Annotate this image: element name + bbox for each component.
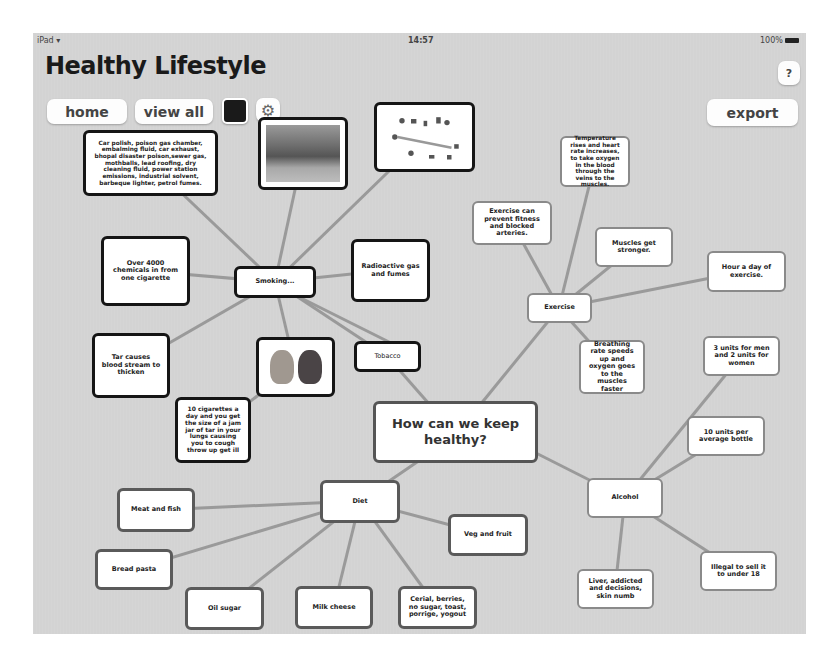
view-all-button[interactable]: view all	[135, 99, 213, 124]
node-breathing[interactable]: Breathing rate speeds up and oxygen goes…	[579, 340, 645, 394]
node-milk-cheese[interactable]: Milk cheese	[295, 586, 373, 629]
help-button[interactable]: ?	[778, 61, 800, 85]
node-central[interactable]: How can we keep healthy?	[373, 401, 538, 463]
node-meat-fish[interactable]: Meat and fish	[117, 488, 195, 532]
node-diagram-image[interactable]	[374, 102, 475, 172]
node-veg-fruit[interactable]: Veg and fruit	[448, 514, 528, 556]
node-tobacco[interactable]: Tobacco	[354, 341, 421, 372]
node-temperature[interactable]: Temperature rises and heart rate increas…	[560, 136, 630, 187]
node-muscles[interactable]: Muscles get stronger.	[595, 227, 673, 267]
node-4000-chemicals[interactable]: Over 4000 chemicals in from one cigarett…	[101, 236, 190, 306]
node-cerial[interactable]: Cerial, berries, no sugar, toast, porrig…	[398, 586, 477, 629]
node-lungs-image[interactable]	[256, 337, 335, 397]
home-button[interactable]: home	[47, 99, 127, 124]
node-factory-image[interactable]	[258, 117, 348, 190]
node-liver[interactable]: Liver, addicted and decisions, skin numb	[577, 569, 654, 609]
node-radioactive[interactable]: Radioactive gas and fumes	[351, 239, 430, 302]
export-button[interactable]: export	[707, 99, 798, 126]
color-swatch-button[interactable]	[222, 98, 248, 124]
node-illegal[interactable]: Illegal to sell it to under 18	[700, 551, 777, 591]
node-tar[interactable]: Tar causes blood stream to thicken	[92, 333, 170, 398]
node-chemicals-list[interactable]: Car polish, poison gas chamber, embalmin…	[83, 130, 218, 196]
factory-photo	[266, 125, 340, 182]
node-10-cigarettes[interactable]: 10 cigarettes a day and you get the size…	[175, 397, 251, 463]
node-diet[interactable]: Diet	[320, 480, 400, 523]
node-units-bottle[interactable]: 10 units per average bottle	[687, 416, 765, 456]
node-exercise-prevent[interactable]: Exercise can prevent fitness and blocked…	[472, 201, 552, 245]
node-hour-a-day[interactable]: Hour a day of exercise.	[707, 251, 786, 292]
lungs-image	[264, 345, 327, 389]
node-oil-sugar[interactable]: Oil sugar	[185, 587, 264, 630]
chemicals-diagram	[382, 110, 467, 164]
node-alcohol[interactable]: Alcohol	[587, 478, 663, 518]
node-units-men-women[interactable]: 3 units for men and 2 units for women	[703, 336, 780, 376]
node-smoking[interactable]: Smoking...	[234, 266, 316, 298]
node-exercise[interactable]: Exercise	[527, 293, 592, 323]
node-bread-pasta[interactable]: Bread pasta	[95, 549, 173, 590]
